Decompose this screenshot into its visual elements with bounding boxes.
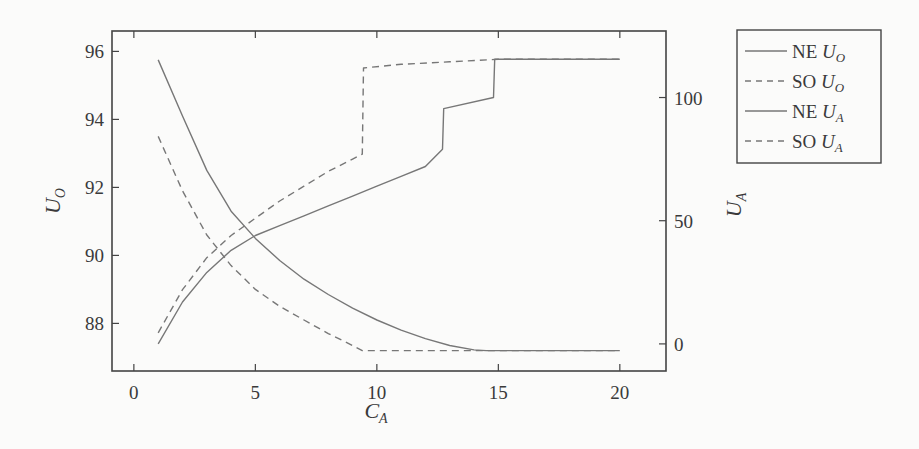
series-layer <box>158 59 620 350</box>
left-y-tick-label: 88 <box>85 313 104 334</box>
chart: 05101520 8890929496 050100 CA UO UA NE U… <box>0 0 919 449</box>
right-y-axis-label: UA <box>721 192 749 217</box>
series-so-ua <box>158 59 620 333</box>
plot-frame <box>112 31 666 371</box>
left-y-tick-label: 90 <box>85 245 104 266</box>
left-y-axis-ticks: 8890929496 <box>85 41 119 334</box>
x-tick-label: 20 <box>610 382 629 403</box>
right-y-tick-label: 100 <box>674 88 703 109</box>
left-y-tick-label: 96 <box>85 41 104 62</box>
legend: NE UO SO UO NE UA SO UA <box>737 30 881 163</box>
series-so-uo <box>158 136 620 350</box>
right-y-tick-label: 0 <box>674 334 684 355</box>
x-tick-label: 5 <box>251 382 261 403</box>
left-y-axis-label: UO <box>40 188 68 214</box>
x-tick-label: 15 <box>489 382 508 403</box>
x-axis-ticks: 05101520 <box>129 31 629 403</box>
right-y-tick-label: 50 <box>674 211 693 232</box>
series-ne-uo <box>158 60 620 351</box>
series-ne-ua <box>158 59 620 344</box>
left-y-tick-label: 92 <box>85 177 104 198</box>
x-tick-label: 0 <box>129 382 139 403</box>
left-y-tick-label: 94 <box>85 109 105 130</box>
